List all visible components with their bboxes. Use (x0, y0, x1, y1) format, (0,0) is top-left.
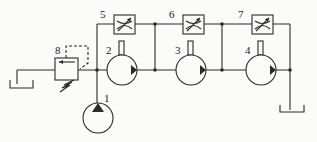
label-relief-valve-8: 8 (55, 45, 61, 56)
label-motor-4: 4 (245, 45, 251, 56)
label-throttle-5: 5 (100, 9, 106, 20)
throttle-valve-icon (183, 15, 204, 34)
label-throttle-6: 6 (169, 9, 175, 20)
throttle-valve-icon (252, 15, 273, 34)
pump-icon (83, 103, 113, 133)
label-motor-2: 2 (106, 45, 112, 56)
label-throttle-7: 7 (238, 9, 244, 20)
throttle-valve-icon (114, 15, 135, 34)
label-motor-3: 3 (175, 45, 181, 56)
motor-icon (107, 41, 137, 85)
label-pump-1: 1 (104, 93, 110, 104)
tank-icon (10, 80, 33, 88)
hydraulic-diagram: 5 6 7 2 3 4 1 8 (0, 0, 317, 142)
diagram-lines (0, 0, 317, 142)
tank-icon (280, 105, 304, 112)
